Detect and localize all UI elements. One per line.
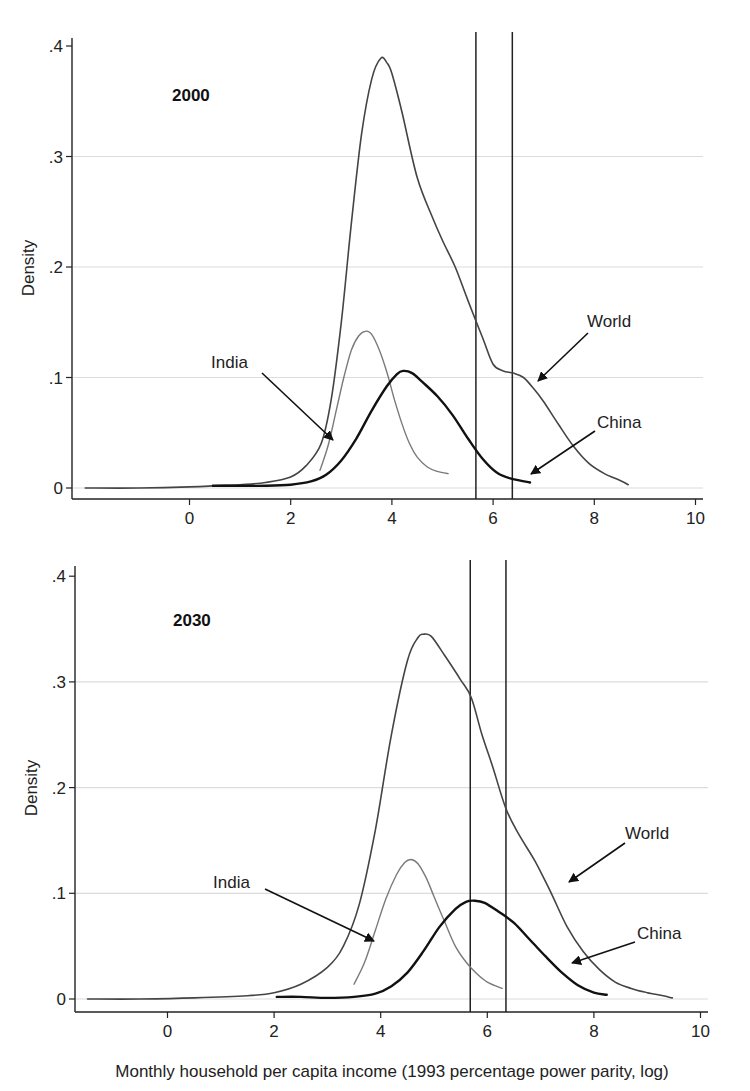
density-chart-svg: 0.1.2.3.40246810Density2000IndiaWorldChi…	[0, 0, 750, 1091]
series-india-line	[354, 859, 502, 988]
y-tick-label: .4	[52, 567, 66, 586]
series-india-line	[320, 331, 448, 474]
y-tick-label: .3	[52, 673, 66, 692]
annotation-india-arrow	[262, 373, 333, 440]
y-tick-label: .2	[52, 779, 66, 798]
x-tick-label: 6	[488, 509, 497, 528]
annotation-india-label: India	[213, 873, 250, 892]
y-axis-title: Density	[22, 759, 41, 816]
y-tick-label: .4	[49, 37, 63, 56]
annotation-world-label: World	[587, 312, 631, 331]
density-figure: 0.1.2.3.40246810Density2000IndiaWorldChi…	[0, 0, 750, 1091]
y-tick-label: 0	[54, 479, 63, 498]
panel-title: 2000	[172, 86, 210, 105]
x-tick-label: 2	[286, 509, 295, 528]
annotation-india-arrow	[265, 889, 374, 941]
x-tick-label: 10	[686, 509, 705, 528]
x-tick-label: 8	[589, 1022, 598, 1041]
x-tick-label: 4	[387, 509, 396, 528]
y-axis-title: Density	[19, 239, 38, 296]
annotation-china-label: China	[637, 924, 682, 943]
x-tick-label: 0	[185, 509, 194, 528]
series-world-line	[85, 57, 628, 488]
annotation-world-label: World	[625, 824, 669, 843]
y-tick-label: 0	[57, 990, 66, 1009]
panel-2030: 0.1.2.3.40246810Density2030IndiaWorldChi…	[22, 560, 710, 1041]
x-tick-label: 10	[691, 1022, 710, 1041]
x-tick-label: 2	[269, 1022, 278, 1041]
annotation-world-arrow	[569, 843, 625, 882]
y-tick-label: .2	[49, 258, 63, 277]
annotation-china-arrow	[531, 431, 595, 474]
panel-2000: 0.1.2.3.40246810Density2000IndiaWorldChi…	[19, 32, 705, 528]
annotation-china-arrow	[572, 942, 635, 963]
annotation-china-label: China	[597, 413, 642, 432]
y-tick-label: .1	[52, 884, 66, 903]
annotation-india-label: India	[211, 353, 248, 372]
x-axis-title: Monthly household per capita income (199…	[115, 1062, 668, 1081]
y-tick-label: .1	[49, 369, 63, 388]
y-tick-label: .3	[49, 148, 63, 167]
series-china-line	[213, 371, 530, 486]
annotation-world-arrow	[538, 333, 588, 381]
x-tick-label: 0	[163, 1022, 172, 1041]
x-tick-label: 6	[483, 1022, 492, 1041]
x-tick-label: 8	[590, 509, 599, 528]
panel-title: 2030	[173, 611, 211, 630]
x-tick-label: 4	[376, 1022, 385, 1041]
series-world-line	[88, 634, 673, 999]
